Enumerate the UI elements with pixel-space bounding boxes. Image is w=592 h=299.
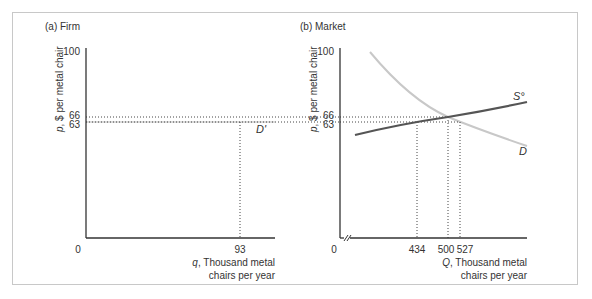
- firm-y-axis-label: p, $ per metal chair: [54, 46, 65, 133]
- market-xtick-0: 0: [331, 244, 337, 255]
- axis-break-icon: [344, 235, 351, 241]
- firm-ytick-63: 63: [69, 119, 81, 130]
- market-xtick-500: 500: [438, 244, 455, 255]
- firm-demand-label: D': [256, 123, 267, 135]
- chart-canvas: (a) Firm p, $ per metal chair 100 66 63 …: [0, 0, 592, 299]
- market-xtick-434: 434: [409, 244, 426, 255]
- market-y-axis-label: p, $ per metal chair: [308, 46, 319, 133]
- firm-title: (a) Firm: [45, 21, 80, 32]
- firm-xtick-93: 93: [234, 244, 246, 255]
- market-ytick-63: 63: [323, 119, 335, 130]
- firm-panel: (a) Firm p, $ per metal chair 100 66 63 …: [45, 21, 340, 281]
- market-xtick-527: 527: [457, 244, 474, 255]
- market-ytick-100: 100: [317, 46, 334, 57]
- market-x-axis-label-2: chairs per year: [461, 270, 528, 281]
- firm-ytick-100: 100: [63, 46, 80, 57]
- firm-x-axis-label-2: chairs per year: [209, 270, 276, 281]
- market-panel: (b) Market p, $ per metal chair 100 66 6…: [300, 21, 528, 281]
- firm-xtick-0: 0: [75, 244, 81, 255]
- market-demand-curve: [370, 52, 527, 146]
- firm-x-axis-label-1: q, Thousand metal: [192, 257, 275, 268]
- market-title: (b) Market: [300, 21, 346, 32]
- market-demand-label: D: [519, 145, 527, 157]
- market-supply-label: S°: [513, 90, 525, 102]
- market-supply-curve: [355, 102, 527, 135]
- market-x-axis-label-1: Q, Thousand metal: [442, 257, 527, 268]
